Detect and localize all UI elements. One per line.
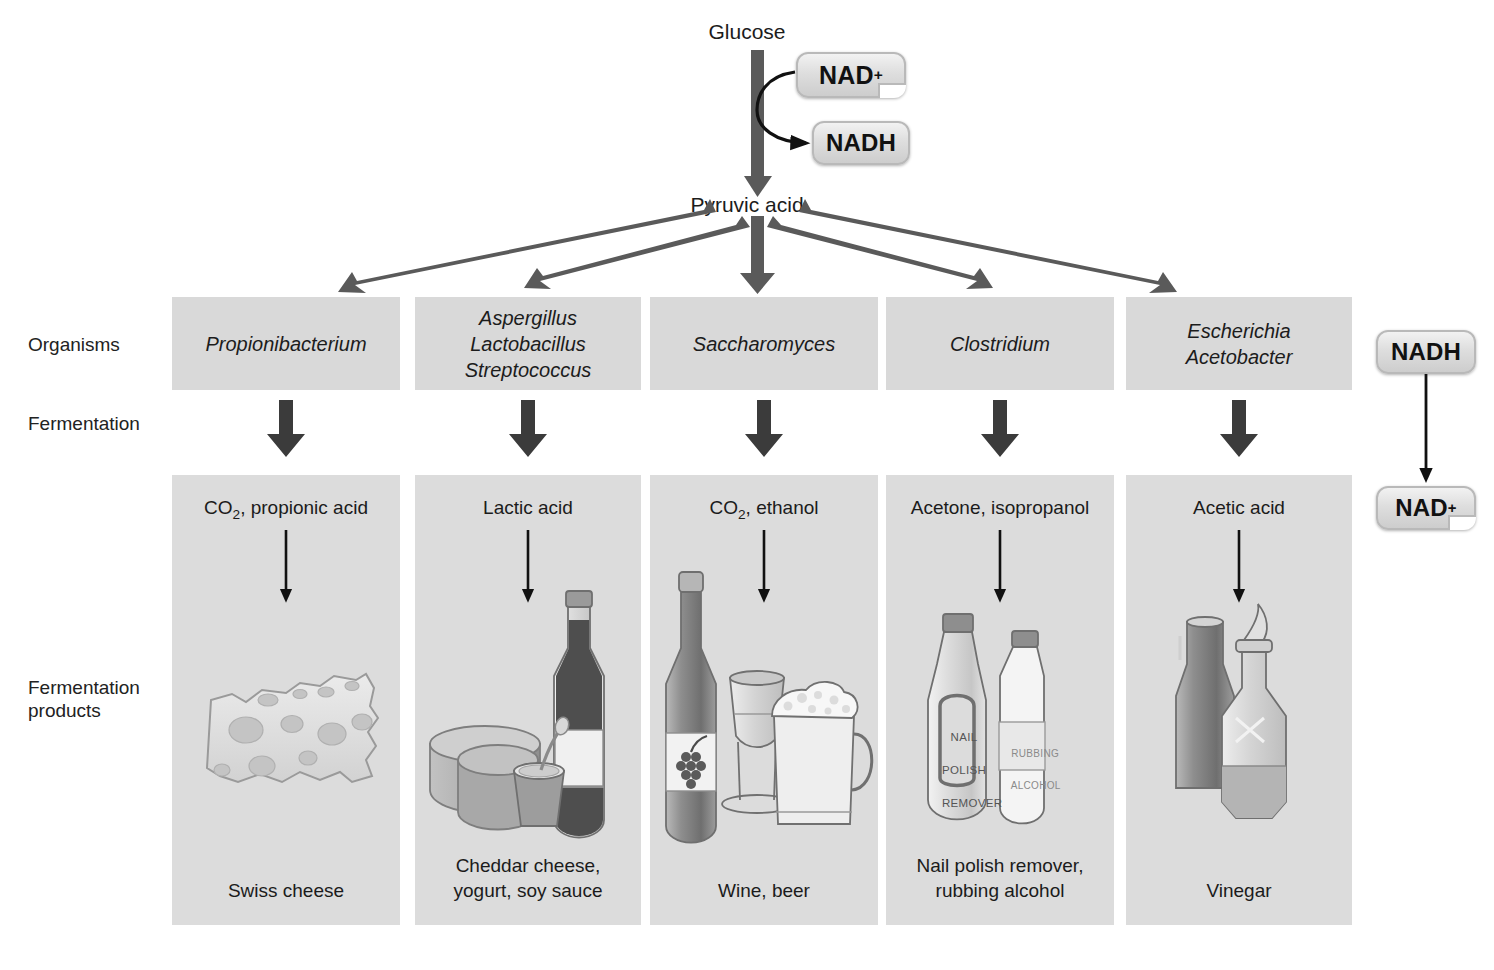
organism-names-2: Aspergillus Lactobacillus Streptococcus [465,305,592,383]
products-label-line2: products [28,700,101,721]
product-name-2: Cheddar cheese, yogurt, soy sauce [415,853,641,903]
organism-name: Saccharomyces [693,333,835,355]
organism-name: Clostridium [950,333,1050,355]
organism-box-2: Aspergillus Lactobacillus Streptococcus [415,297,641,390]
product-chemicals-2: Lactic acid [415,497,641,519]
nadh-chip-top: NADH [812,121,910,165]
organism-box-5: Escherichia Acetobacter [1126,297,1352,390]
organism-names-3: Saccharomyces [693,331,835,357]
organism-box-3: Saccharomyces [650,297,878,390]
product-name-1: Swiss cheese [172,878,400,903]
nadh-label-right: NADH [1391,338,1461,366]
product-panel-4: Acetone, isopropanol Nail polish remover… [886,475,1114,925]
nad-plus-chip-right: NAD+ [1376,486,1476,530]
nail-polish-label-text: NAIL POLISH REMOVER [928,712,986,829]
organism-name: Acetobacter [1186,346,1293,368]
organism-name: Escherichia [1187,320,1290,342]
nadh-chip-right: NADH [1376,330,1476,374]
rubbing-alcohol-label-text: RUBBING ALCOHOL [999,730,1045,810]
product-panel-2: Lactic acid Cheddar cheese, yogurt, soy … [415,475,641,925]
fermentation-arrows [267,400,1258,457]
product-panel-5: Acetic acid Vinegar [1126,475,1352,925]
product-chemicals-4: Acetone, isopropanol [886,497,1114,519]
organism-name: Streptococcus [465,359,592,381]
nad-plus-label-top: NAD [819,61,874,90]
row-label-organisms: Organisms [28,333,120,356]
product-chemicals-1: CO2, propionic acid [172,497,400,522]
organism-name: Propionibacterium [205,333,366,355]
nad-plus-label-right: NAD [1395,494,1448,522]
glucose-label: Glucose [0,20,1494,44]
fermentation-diagram: Glucose NAD+ NADH Pyruvic acid Organisms… [0,0,1494,970]
product-name-5: Vinegar [1126,878,1352,903]
nadh-label-top: NADH [826,129,896,157]
product-chemicals-5: Acetic acid [1126,497,1352,519]
organism-name: Aspergillus [479,307,577,329]
glucose-to-pyruvate-arrow [744,50,772,197]
product-panel-3: CO2, ethanol Wine, beer [650,475,878,925]
product-chemicals-3: CO2, ethanol [650,497,878,522]
row-label-fermentation-products: Fermentation products [28,676,140,722]
product-name-4: Nail polish remover, rubbing alcohol [886,853,1114,903]
product-name-3: Wine, beer [650,878,878,903]
organism-names-5: Escherichia Acetobacter [1186,318,1293,370]
organism-names-4: Clostridium [950,331,1050,357]
row-label-fermentation: Fermentation [28,412,140,435]
organism-box-1: Propionibacterium [172,297,400,390]
organism-name: Lactobacillus [470,333,586,355]
pyruvic-acid-label: Pyruvic acid [0,193,1494,217]
nad-plus-chip-top: NAD+ [796,52,906,98]
organism-box-4: Clostridium [886,297,1114,390]
products-label-line1: Fermentation [28,677,140,698]
product-panel-1: CO2, propionic acid Swiss cheese [172,475,400,925]
organism-names-1: Propionibacterium [205,331,366,357]
